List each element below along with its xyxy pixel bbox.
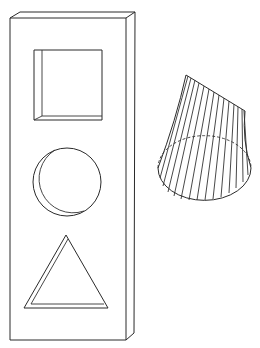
right-silhouette (244, 111, 251, 168)
slab-top-face (10, 12, 135, 18)
square-outer (34, 50, 102, 120)
triangle-outer (24, 235, 108, 308)
left-silhouette (158, 75, 186, 168)
square-inner-edge (42, 50, 102, 116)
figure-canvas (0, 0, 260, 348)
circle-outer (33, 148, 101, 216)
triangle-inner-edge (31, 239, 104, 304)
triangle-cutout (24, 235, 108, 308)
slab (10, 12, 135, 340)
square-corner-edge (34, 116, 42, 120)
circle-cutout (33, 148, 101, 216)
slab-side-face (126, 12, 135, 340)
circle-inner-edge (39, 150, 84, 213)
base-ellipse-front (158, 168, 251, 200)
square-cutout (34, 50, 102, 120)
slab-front-face (10, 18, 126, 340)
ruled-surface (158, 75, 251, 200)
rulings (160, 76, 248, 200)
